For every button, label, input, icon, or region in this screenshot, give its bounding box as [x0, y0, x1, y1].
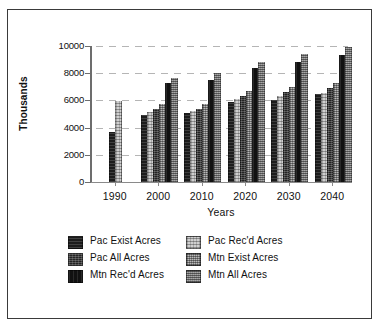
x-axis-tick-label: 2040 [311, 190, 353, 202]
bar [171, 78, 178, 182]
y-axis-tick-label: 8000 [40, 68, 84, 78]
legend-item[interactable]: Mtn All Acres [186, 268, 311, 285]
bar-group [228, 46, 263, 182]
x-axis-title: Years [90, 206, 352, 218]
y-axis-tick-label: 10000 [40, 41, 84, 51]
legend-label: Pac Rec'd Acres [208, 235, 283, 246]
legend-swatch [68, 270, 83, 283]
legend-swatch [186, 270, 201, 283]
y-axis-tick-label: 4000 [40, 123, 84, 133]
y-axis-tick-label: 6000 [40, 95, 84, 105]
bar-group [184, 46, 219, 182]
legend-label: Mtn Exist Acres [208, 252, 278, 263]
x-axis-tick-label: 2030 [268, 190, 310, 202]
x-axis-tick [289, 182, 290, 186]
y-axis-tick-label: 2000 [40, 150, 84, 160]
y-axis-title: Thousands [18, 66, 29, 142]
x-axis-tick-label: 1990 [94, 190, 136, 202]
plot-area [91, 46, 352, 182]
x-axis-tick-label: 2020 [224, 190, 266, 202]
bar-group [271, 46, 306, 182]
x-axis-tick [332, 182, 333, 186]
bar [115, 101, 122, 182]
legend-column-right: Pac Rec'd AcresMtn Exist AcresMtn All Ac… [186, 234, 311, 285]
legend-item[interactable]: Pac Exist Acres [68, 234, 193, 251]
x-axis-tick-label: 2000 [137, 190, 179, 202]
legend-item[interactable]: Pac Rec'd Acres [186, 234, 311, 251]
x-axis-tick [115, 182, 116, 186]
x-axis-line [90, 182, 352, 183]
y-axis-tick-label: 0 [40, 177, 84, 187]
x-axis-tick-label: 2010 [181, 190, 223, 202]
bar [214, 73, 221, 182]
x-axis-tick [202, 182, 203, 186]
legend-column-left: Pac Exist AcresPac All AcresMtn Rec'd Ac… [68, 234, 193, 285]
bar [258, 62, 265, 182]
legend-label: Mtn Rec'd Acres [90, 269, 164, 280]
bar [345, 47, 352, 182]
legend-swatch [68, 253, 83, 266]
x-axis-tick [245, 182, 246, 186]
bar [301, 54, 308, 182]
legend-label: Mtn All Acres [208, 269, 267, 280]
y-axis-tick [85, 182, 91, 183]
chart-frame: 0200040006000800010000 Thousands 1990200… [7, 9, 372, 319]
legend-swatch [186, 253, 201, 266]
bar-group [109, 46, 120, 182]
chart-canvas: 0200040006000800010000 Thousands 1990200… [8, 10, 373, 320]
chart-legend: Pac Exist AcresPac All AcresMtn Rec'd Ac… [68, 234, 318, 296]
legend-label: Pac Exist Acres [90, 235, 161, 246]
y-axis-labels: 0200040006000800010000 [32, 10, 84, 210]
x-axis-tick [158, 182, 159, 186]
legend-item[interactable]: Mtn Rec'd Acres [68, 268, 193, 285]
bar-group [141, 46, 176, 182]
legend-swatch [186, 236, 201, 249]
legend-label: Pac All Acres [90, 252, 150, 263]
bar-group [315, 46, 350, 182]
legend-item[interactable]: Mtn Exist Acres [186, 251, 311, 268]
legend-swatch [68, 236, 83, 249]
legend-item[interactable]: Pac All Acres [68, 251, 193, 268]
